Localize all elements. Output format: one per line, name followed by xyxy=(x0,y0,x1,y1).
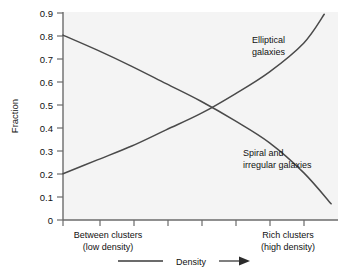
x-category-right-line2: (high density) xyxy=(261,242,315,252)
arrow-right-icon xyxy=(239,257,250,266)
y-tick-label-0: 0 xyxy=(48,215,53,226)
x-axis-category-left: Between clusters (low density) xyxy=(74,230,143,252)
x-axis-category-right: Rich clusters (high density) xyxy=(261,230,315,252)
y-tick-label-7: 0.7 xyxy=(40,54,53,65)
series-label-spiral-line1: Spiral and xyxy=(243,148,284,158)
y-tick-label-4: 0.4 xyxy=(40,123,53,134)
y-tick-label-9: 0.9 xyxy=(40,8,53,19)
density-arrow-label: Density xyxy=(176,257,207,267)
plot-area-background xyxy=(63,12,338,220)
x-category-left-line1: Between clusters xyxy=(74,230,143,240)
y-tick-label-8: 0.8 xyxy=(40,31,53,42)
y-tick-label-5: 0.5 xyxy=(40,100,53,111)
y-tick-label-1: 0.1 xyxy=(40,192,53,203)
y-tick-label-2: 0.2 xyxy=(40,169,53,180)
y-axis-title: Fraction xyxy=(9,99,20,133)
chart-svg: 0 0.1 0.2 0.3 0.4 0.5 0.6 0.7 0.8 0.9 Fr… xyxy=(0,0,338,274)
y-axis-ticks xyxy=(57,13,63,220)
x-category-right-line1: Rich clusters xyxy=(262,230,314,240)
y-tick-label-6: 0.6 xyxy=(40,77,53,88)
series-label-spiral-line2: irregular galaxies xyxy=(243,160,312,170)
series-label-elliptical-line1: Elliptical xyxy=(252,35,285,45)
x-category-left-line2: (low density) xyxy=(83,242,134,252)
y-axis-tick-labels: 0 0.1 0.2 0.3 0.4 0.5 0.6 0.7 0.8 0.9 xyxy=(40,8,53,226)
y-tick-label-3: 0.3 xyxy=(40,146,53,157)
series-label-elliptical-line2: galaxies xyxy=(252,47,286,57)
chart-figure: 0 0.1 0.2 0.3 0.4 0.5 0.6 0.7 0.8 0.9 Fr… xyxy=(0,0,338,274)
x-axis-ticks xyxy=(63,220,304,226)
density-arrow-annotation: Density xyxy=(118,257,250,267)
